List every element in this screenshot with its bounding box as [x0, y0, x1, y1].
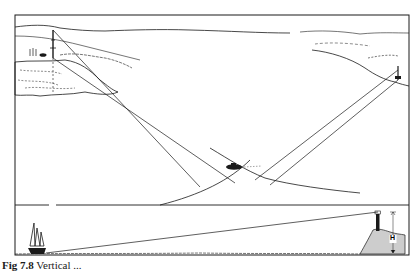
horizon-line — [15, 25, 290, 33]
height-label: H — [390, 234, 395, 241]
left-coast — [15, 60, 118, 96]
figure-frame — [15, 15, 409, 255]
sea-surface — [15, 253, 360, 254]
small-masts-icon — [30, 48, 47, 57]
caption-text: Vertical ... — [36, 259, 81, 271]
lighthouse-icon — [395, 66, 401, 80]
position-arc-right — [210, 148, 360, 193]
position-line-right-1 — [255, 70, 398, 180]
sailing-yacht-icon — [28, 223, 46, 254]
upper-panel — [15, 25, 409, 205]
caption-number: Fig 7.8 — [2, 259, 34, 271]
vertical-angle-diagram — [0, 0, 420, 271]
figure-caption: Fig 7.8 Vertical ... — [2, 259, 82, 271]
position-line-right-2 — [270, 80, 398, 185]
cliff-icon — [360, 229, 405, 254]
lighthouse-tower-icon — [375, 211, 381, 231]
boat-icon — [226, 163, 262, 170]
position-line-left-2 — [53, 58, 235, 183]
sight-line — [46, 212, 378, 253]
lower-panel — [15, 211, 405, 254]
right-coast — [312, 50, 409, 86]
